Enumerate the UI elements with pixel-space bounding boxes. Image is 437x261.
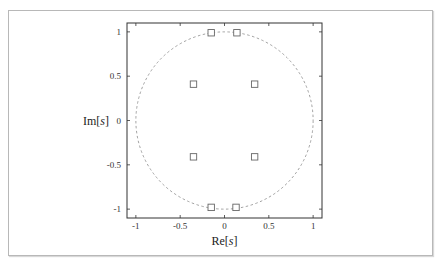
- plot-frame: [127, 23, 322, 218]
- y-axis-label: Im[s]: [83, 114, 109, 128]
- y-tick-label: 0: [117, 116, 122, 126]
- pole-marker: [233, 204, 239, 210]
- x-axis-label: Re[s]: [212, 234, 238, 248]
- pole-marker: [234, 30, 240, 36]
- pole-marker: [190, 154, 196, 160]
- x-tick-label: -0.5: [173, 221, 188, 231]
- unit-circle-path: [136, 32, 313, 209]
- y-axis-ticks: -1-0.500.51: [107, 27, 322, 214]
- x-tick-label: 1: [311, 221, 316, 231]
- x-tick-label: 0: [222, 221, 227, 231]
- y-tick-label: -1: [114, 204, 122, 214]
- pole-marker: [251, 81, 257, 87]
- pole-marker: [251, 154, 257, 160]
- unit-circle: [136, 32, 313, 209]
- x-axis-ticks: -1-0.500.51: [132, 23, 315, 231]
- pole-marker: [208, 204, 214, 210]
- pole-zero-plot: -1-0.500.51 -1-0.500.51 Re[s] Im[s]: [0, 0, 437, 261]
- x-tick-label: -1: [132, 221, 140, 231]
- y-tick-label: -0.5: [107, 160, 122, 170]
- y-tick-label: 1: [117, 27, 122, 37]
- pole-marker: [208, 30, 214, 36]
- pole-marker: [190, 81, 196, 87]
- x-tick-label: 0.5: [263, 221, 275, 231]
- y-tick-label: 0.5: [110, 71, 122, 81]
- pole-markers: [190, 30, 258, 211]
